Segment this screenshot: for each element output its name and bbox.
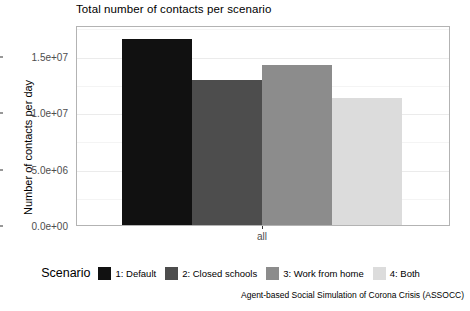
bar [332, 98, 402, 225]
legend-item[interactable]: 1: Default [98, 267, 156, 280]
bar [122, 39, 192, 225]
bar [262, 65, 332, 225]
legend-item[interactable]: 4: Both [373, 267, 420, 280]
legend-key-swatch [373, 267, 386, 280]
legend-title: Scenario [41, 266, 90, 280]
legend-item[interactable]: 3: Work from home [266, 267, 364, 280]
y-axis-ticks: 0.0e+005.0e+061.0e+071.5e+07 [0, 0, 76, 311]
y-axis-tick-mark [0, 113, 3, 114]
legend-item-label: 2: Closed schools [182, 268, 257, 279]
plot-panel [76, 26, 450, 226]
legend-item[interactable]: 2: Closed schools [165, 267, 257, 280]
chart-caption: Agent-based Social Simulation of Corona … [241, 290, 464, 300]
legend: Scenario 1: Default2: Closed schools3: W… [0, 266, 470, 280]
chart-title: Total number of contacts per scenario [76, 3, 271, 15]
legend-key-swatch [165, 267, 178, 280]
bar [192, 80, 262, 225]
y-axis-tick-label: 1.5e+07 [32, 51, 68, 62]
y-axis-tick-label: 0.0e+00 [32, 221, 68, 232]
y-axis-tick-mark [0, 169, 3, 170]
legend-key-swatch [98, 267, 111, 280]
legend-item-label: 4: Both [390, 268, 420, 279]
legend-item-label: 1: Default [115, 268, 156, 279]
x-axis-tick-label: all [257, 231, 267, 242]
y-axis-tick-label: 1.0e+07 [32, 108, 68, 119]
legend-key-swatch [266, 267, 279, 280]
y-axis-tick-mark [0, 226, 3, 227]
x-axis-tick-mark [262, 226, 263, 229]
bar-group [77, 27, 449, 225]
legend-item-label: 3: Work from home [283, 268, 364, 279]
y-axis-tick-mark [0, 56, 3, 57]
y-axis-tick-label: 5.0e+06 [32, 164, 68, 175]
chart-container: Total number of contacts per scenario Nu… [0, 0, 470, 311]
